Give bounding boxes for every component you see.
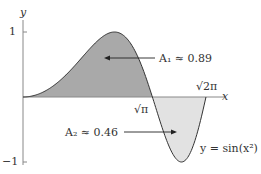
y-axis-label: y [20,7,26,18]
y-tick-label-neg1: −1 [2,156,18,167]
a2-annotation: A₂ ≈ 0.46 [65,127,118,138]
x-tick-label-sqrt-2pi: √2π [196,81,217,92]
x-tick-label-sqrt-pi: √π [134,104,148,115]
x-axis-label: x [222,91,228,102]
a1-annotation: A₁ ≈ 0.89 [159,53,212,64]
region-a1 [23,32,152,97]
y-tick-label-1: 1 [9,26,16,37]
curve-label: y = sin(x²) [200,143,258,154]
